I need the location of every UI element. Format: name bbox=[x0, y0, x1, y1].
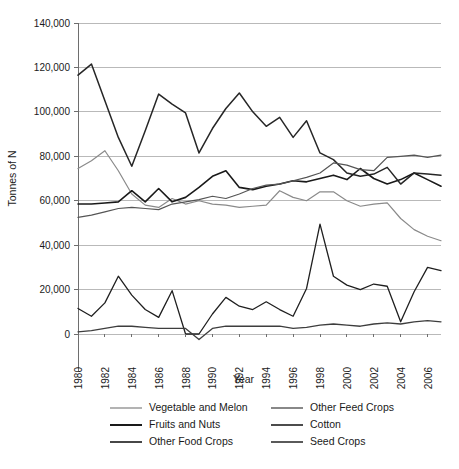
legend-label: Seed Crops bbox=[310, 435, 365, 447]
legend-label: Cotton bbox=[310, 418, 341, 430]
line-chart-figure: 020,00040,00060,00080,000100,000120,0001… bbox=[0, 0, 459, 469]
y-tick-label: 40,000 bbox=[39, 240, 70, 251]
x-tick-label: 1988 bbox=[181, 367, 192, 390]
x-tick-label: 1998 bbox=[315, 367, 326, 390]
y-tick-label: 20,000 bbox=[39, 284, 70, 295]
y-axis-title: Tonnes of N bbox=[6, 150, 18, 206]
y-tick-label: 60,000 bbox=[39, 195, 70, 206]
x-tick-label: 2002 bbox=[369, 367, 380, 390]
legend-label: Other Food Crops bbox=[149, 435, 233, 447]
x-tick-label: 1986 bbox=[154, 367, 165, 390]
y-tick-label: 120,000 bbox=[34, 62, 71, 73]
x-tick-label: 1996 bbox=[288, 367, 299, 390]
x-tick-label: 1990 bbox=[207, 367, 218, 390]
x-tick-label: 2004 bbox=[396, 367, 407, 390]
legend-label: Other Feed Crops bbox=[310, 401, 394, 413]
x-tick-label: 1982 bbox=[100, 367, 111, 390]
y-tick-label: 80,000 bbox=[39, 151, 70, 162]
y-tick-label: 0 bbox=[64, 329, 70, 340]
legend-label: Vegetable and Melon bbox=[149, 401, 248, 413]
x-tick-label: 1994 bbox=[261, 367, 272, 390]
legend-label: Fruits and Nuts bbox=[149, 418, 220, 430]
x-tick-label: 2006 bbox=[423, 367, 434, 390]
x-tick-label: 1984 bbox=[127, 367, 138, 390]
x-tick-label: 2000 bbox=[342, 367, 353, 390]
y-tick-label: 140,000 bbox=[34, 18, 71, 29]
x-axis-title: Year bbox=[233, 373, 255, 385]
y-tick-label: 100,000 bbox=[34, 106, 71, 117]
x-tick-label: 1980 bbox=[73, 367, 84, 390]
